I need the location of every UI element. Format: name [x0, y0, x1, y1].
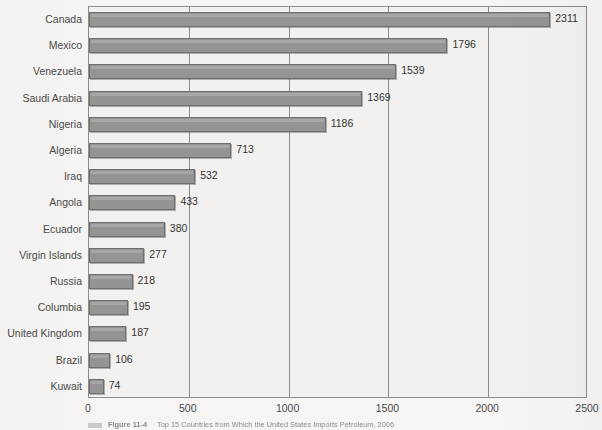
bar-highlight — [91, 66, 394, 69]
bar-highlight — [91, 302, 126, 305]
category-label: Saudi Arabia — [0, 85, 82, 111]
category-label: Virgin Islands — [0, 242, 82, 268]
bar-row: 277 — [89, 243, 586, 269]
bar-highlight — [91, 40, 445, 43]
category-label: United Kingdom — [0, 320, 82, 346]
bar[interactable] — [89, 379, 104, 394]
bar[interactable] — [89, 326, 126, 341]
bar-highlight — [91, 119, 324, 122]
bar[interactable] — [89, 300, 128, 315]
plot-area: 2311179615391369118671353243338027721819… — [88, 6, 587, 398]
bar-value-label: 218 — [138, 273, 156, 288]
category-label: Nigeria — [0, 111, 82, 137]
bar-value-label: 1796 — [452, 37, 475, 52]
bar-highlight — [91, 276, 131, 279]
bar-value-label: 713 — [236, 142, 254, 157]
bar-row: 106 — [89, 348, 586, 374]
figure-container: CanadaMexicoVenezuelaSaudi ArabiaNigeria… — [0, 0, 602, 430]
category-label: Venezuela — [0, 58, 82, 84]
bar-row: 195 — [89, 295, 586, 321]
bar[interactable] — [89, 12, 550, 27]
bar[interactable] — [89, 353, 110, 368]
bar-row: 433 — [89, 190, 586, 216]
bar-value-label: 187 — [131, 325, 149, 340]
bar-row: 74 — [89, 374, 586, 400]
bar-row: 187 — [89, 321, 586, 347]
bar-value-label: 195 — [133, 299, 151, 314]
bar-highlight — [91, 250, 142, 253]
bar[interactable] — [89, 169, 195, 184]
bar-row: 1539 — [89, 59, 586, 85]
bar-row: 218 — [89, 269, 586, 295]
bar[interactable] — [89, 143, 231, 158]
bar-value-label: 106 — [115, 352, 133, 367]
bar-value-label: 1369 — [367, 90, 390, 105]
figure-caption: Figure 11-4Top 15 Countries from Which t… — [88, 420, 588, 430]
category-label: Algeria — [0, 137, 82, 163]
bar-highlight — [91, 381, 102, 384]
x-tick-label: 500 — [179, 402, 197, 414]
bar-row: 713 — [89, 138, 586, 164]
category-label: Mexico — [0, 32, 82, 58]
bar-highlight — [91, 328, 124, 331]
caption-figure-number: Figure 11-4 — [108, 420, 147, 429]
bar-value-label: 277 — [149, 247, 167, 262]
bar-value-label: 433 — [180, 194, 198, 209]
bar-highlight — [91, 93, 360, 96]
category-label: Russia — [0, 268, 82, 294]
category-label: Kuwait — [0, 373, 82, 399]
bar-row: 1796 — [89, 33, 586, 59]
bar-row: 1369 — [89, 86, 586, 112]
bar-row: 1186 — [89, 112, 586, 138]
bar[interactable] — [89, 64, 396, 79]
bar[interactable] — [89, 274, 133, 289]
caption-text: Top 15 Countries from Which the United S… — [157, 420, 394, 429]
category-label: Columbia — [0, 294, 82, 320]
bar[interactable] — [89, 248, 144, 263]
bar[interactable] — [89, 91, 362, 106]
bar[interactable] — [89, 222, 165, 237]
bar-row: 380 — [89, 217, 586, 243]
x-tick-label: 1500 — [376, 402, 399, 414]
bar-highlight — [91, 224, 163, 227]
category-label: Iraq — [0, 163, 82, 189]
x-tick-label: 2000 — [476, 402, 499, 414]
bar-highlight — [91, 171, 193, 174]
bar-highlight — [91, 14, 548, 17]
bar-highlight — [91, 197, 173, 200]
bar[interactable] — [89, 38, 447, 53]
bar-highlight — [91, 355, 108, 358]
bar-value-label: 74 — [109, 378, 121, 393]
bar-highlight — [91, 145, 229, 148]
caption-swatch-icon — [88, 423, 102, 428]
bar[interactable] — [89, 117, 326, 132]
bar-value-label: 1186 — [331, 116, 354, 131]
x-tick-label: 2500 — [575, 402, 598, 414]
bar-value-label: 380 — [170, 221, 188, 236]
category-label: Angola — [0, 189, 82, 215]
bar-row: 532 — [89, 164, 586, 190]
category-label: Ecuador — [0, 216, 82, 242]
x-tick-label: 1000 — [276, 402, 299, 414]
x-tick-label: 0 — [85, 402, 91, 414]
bar-value-label: 532 — [200, 168, 218, 183]
bar-value-label: 1539 — [401, 63, 424, 78]
bar[interactable] — [89, 195, 175, 210]
category-label: Canada — [0, 6, 82, 32]
bar-row: 2311 — [89, 7, 586, 33]
category-label: Brazil — [0, 347, 82, 373]
bar-value-label: 2311 — [555, 11, 578, 26]
